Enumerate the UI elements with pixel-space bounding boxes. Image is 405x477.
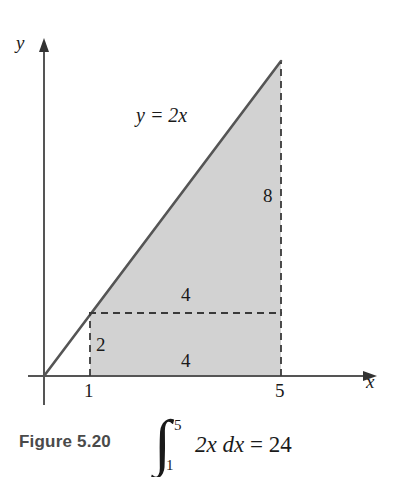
- x-axis-label: x: [366, 372, 374, 391]
- equals-sign: =: [250, 432, 263, 457]
- integral-lower-limit: 1: [166, 457, 174, 474]
- x-tick-label-1: 1: [84, 381, 94, 400]
- annotation-height-2: 2: [96, 335, 106, 354]
- figure-caption: Figure 5.20 ∫ 5 1 2x dx = 24: [0, 412, 405, 477]
- x-tick-label-5: 5: [275, 381, 285, 400]
- integrand-text: 2x dx: [195, 432, 244, 457]
- plot-area: [0, 0, 405, 412]
- annotation-height-8: 8: [263, 186, 273, 205]
- figure-caption-title: Figure 5.20: [19, 432, 111, 452]
- integral-upper-limit: 5: [174, 417, 182, 434]
- annotation-upper-width-4: 4: [181, 285, 191, 304]
- y-axis-label: y: [16, 33, 24, 52]
- integral-result: 24: [269, 432, 292, 457]
- integrand-expression: 2x dx = 24: [195, 432, 292, 458]
- integral-group: ∫ 5 1: [152, 415, 190, 475]
- figure-container: y x y = 2x 1 5 8 4 4 2 Figure 5.20 ∫ 5 1…: [0, 0, 405, 477]
- y-axis-arrowhead: [39, 38, 49, 52]
- curve-label: y = 2x: [136, 105, 187, 125]
- figure-caption-formula: ∫ 5 1 2x dx = 24: [152, 413, 292, 477]
- annotation-lower-width-4: 4: [181, 351, 191, 370]
